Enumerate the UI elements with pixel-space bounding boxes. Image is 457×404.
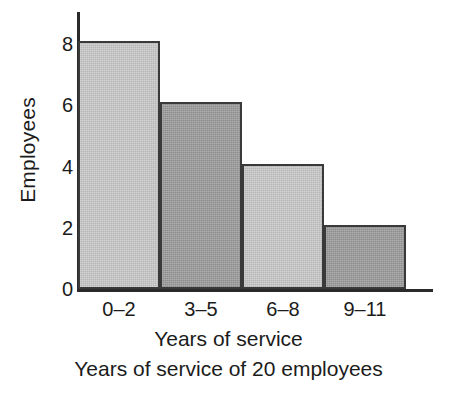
figure-caption: Years of service of 20 employees: [0, 357, 457, 381]
x-axis-tick-label: 0–2: [78, 297, 160, 321]
y-axis-tick-label-4: 4: [62, 157, 73, 177]
x-axis-tick-label: 9–11: [324, 297, 406, 321]
y-axis-tick-labels: 02468: [47, 12, 73, 292]
x-axis-tick-label: 3–5: [160, 297, 242, 321]
y-axis-tick-label-6: 6: [62, 95, 73, 115]
y-axis-tick-label-8: 8: [62, 34, 73, 54]
x-axis-line: [77, 289, 433, 292]
bar: [160, 102, 242, 289]
x-axis-tick-label: 6–8: [242, 297, 324, 321]
plot-area: [77, 12, 433, 292]
bar: [324, 225, 406, 289]
bar: [242, 164, 324, 290]
x-axis-title: Years of service: [0, 327, 457, 351]
y-axis-tick-label-0: 0: [62, 279, 73, 299]
y-axis-tick-label-2: 2: [62, 218, 73, 238]
bar: [78, 41, 160, 289]
y-axis-title-text: Employees: [16, 97, 40, 203]
x-axis-tick-labels: 0–23–56–89–11: [77, 297, 433, 323]
bar-chart-figure: Employees 02468 0–23–56–89–11 Years of s…: [0, 0, 457, 404]
